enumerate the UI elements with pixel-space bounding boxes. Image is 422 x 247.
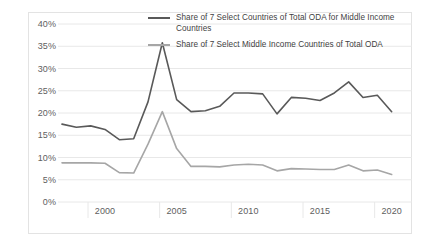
chart-container: 0%5%10%15%20%25%30%35%40% 20002005201020… bbox=[0, 0, 422, 247]
x-axis-tick: 2000 bbox=[95, 206, 115, 216]
legend-item-label: Share of 7 Select Countries of Total ODA… bbox=[176, 12, 406, 34]
x-axis-tick: 2020 bbox=[381, 206, 401, 216]
legend-item-label: Share of 7 Select Middle Income Countrie… bbox=[176, 39, 383, 50]
chart-legend: Share of 7 Select Countries of Total ODA… bbox=[148, 12, 406, 55]
series-line bbox=[62, 112, 392, 175]
x-axis-tick: 2015 bbox=[310, 206, 330, 216]
x-axis-tick: 2010 bbox=[238, 206, 258, 216]
legend-line-swatch-icon bbox=[148, 44, 170, 46]
legend-item: Share of 7 Select Middle Income Countrie… bbox=[148, 39, 406, 50]
legend-item: Share of 7 Select Countries of Total ODA… bbox=[148, 12, 406, 34]
x-axis-tick: 2005 bbox=[166, 206, 186, 216]
series-lines-group bbox=[62, 43, 392, 175]
legend-line-swatch-icon bbox=[148, 17, 170, 19]
